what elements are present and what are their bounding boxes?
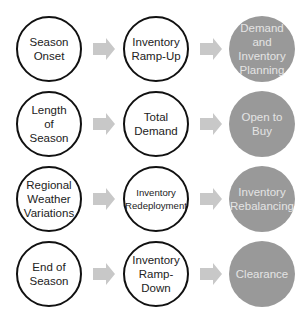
- node-label: Regional Weather Variations: [22, 178, 76, 220]
- node-inventory-rebalancing: Inventory Rebalancing: [229, 166, 295, 232]
- arrow-right-icon: [93, 113, 115, 135]
- node-clearance: Clearance: [229, 241, 295, 307]
- node-label: Inventory Rebalancing: [228, 185, 296, 213]
- node-length-of-season: Length of Season: [16, 91, 82, 157]
- node-demand-inventory-planning: Demand and Inventory Planning: [229, 16, 295, 82]
- arrow-right-icon: [200, 38, 222, 60]
- node-label: Total Demand: [132, 110, 179, 138]
- arrow-right-icon: [200, 188, 222, 210]
- node-label: Demand and Inventory Planning: [236, 21, 287, 77]
- node-label: Open to Buy: [240, 110, 285, 138]
- node-open-to-buy: Open to Buy: [229, 91, 295, 157]
- node-total-demand: Total Demand: [123, 91, 189, 157]
- node-label: Clearance: [234, 267, 290, 281]
- arrow-right-icon: [93, 38, 115, 60]
- node-season-onset: Season Onset: [16, 16, 82, 82]
- arrow-right-icon: [200, 113, 222, 135]
- node-label: Season Onset: [27, 35, 70, 63]
- node-label: End of Season: [27, 260, 70, 288]
- node-label: Inventory Redeployment: [123, 186, 189, 212]
- arrow-right-icon: [200, 263, 222, 285]
- node-inventory-redeployment: Inventory Redeployment: [123, 166, 189, 232]
- node-end-of-season: End of Season: [16, 241, 82, 307]
- node-label: Length of Season: [27, 103, 70, 145]
- node-label: Inventory Ramp-Up: [129, 35, 182, 63]
- node-inventory-ramp-down: Inventory Ramp-Down: [123, 241, 189, 307]
- arrow-right-icon: [93, 263, 115, 285]
- node-label: Inventory Ramp-Down: [125, 253, 187, 295]
- node-regional-weather-variations: Regional Weather Variations: [16, 166, 82, 232]
- node-inventory-ramp-up: Inventory Ramp-Up: [123, 16, 189, 82]
- arrow-right-icon: [93, 188, 115, 210]
